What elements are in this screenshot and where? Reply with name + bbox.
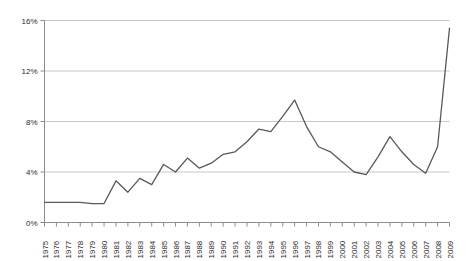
x-axis-tick-label: 1975 (41, 240, 50, 258)
x-axis-tick-label: 2006 (410, 240, 419, 258)
x-axis-tick-label: 1984 (148, 240, 157, 258)
y-axis-tick-label: 8% (26, 118, 38, 127)
x-axis-tick-label: 1990 (219, 240, 228, 258)
x-axis-tick-label: 2005 (398, 240, 407, 258)
plot-background (0, 0, 467, 261)
x-axis-tick-label: 1991 (231, 240, 240, 258)
y-axis-tick-label: 16% (21, 17, 37, 26)
y-axis-tick-label: 0% (26, 219, 38, 228)
x-axis-tick-label: 1994 (267, 240, 276, 258)
x-axis-tick-label: 1995 (279, 240, 288, 258)
x-axis-tick-label: 1998 (314, 240, 323, 258)
line-chart: 0%4%8%12%16% 197519761977197819791980198… (0, 0, 467, 261)
x-axis-tick-label: 1986 (172, 240, 181, 258)
x-axis-tick-label: 1982 (124, 240, 133, 258)
x-axis-labels: 1975197619771978197919801981198219831984… (41, 240, 455, 258)
y-axis-tick-label: 4% (26, 168, 38, 177)
x-axis-tick-label: 1979 (88, 240, 97, 258)
x-axis-tick-label: 1997 (303, 240, 312, 258)
x-axis-tick-label: 2009 (446, 240, 455, 258)
x-axis-tick-label: 2000 (338, 240, 347, 258)
x-axis-tick-label: 1988 (195, 240, 204, 258)
x-axis-tick-label: 1977 (64, 240, 73, 258)
chart-canvas: 0%4%8%12%16% 197519761977197819791980198… (0, 0, 467, 261)
x-axis-tick-label: 2002 (362, 240, 371, 258)
x-axis-tick-label: 1976 (52, 240, 61, 258)
x-axis-tick-label: 1985 (160, 240, 169, 258)
y-axis-tick-label: 12% (21, 67, 37, 76)
x-axis-tick-label: 1996 (291, 240, 300, 258)
x-axis-tick-label: 2004 (386, 240, 395, 258)
x-axis-tick-label: 1981 (112, 240, 121, 258)
x-axis-tick-label: 1999 (326, 240, 335, 258)
x-axis-tick-label: 1983 (136, 240, 145, 258)
x-axis-tick-label: 1992 (243, 240, 252, 258)
x-axis-tick-label: 2008 (434, 240, 443, 258)
x-axis-tick-label: 2007 (422, 240, 431, 258)
x-axis-tick-label: 1989 (207, 240, 216, 258)
x-axis-tick-label: 1987 (183, 240, 192, 258)
x-axis-tick-label: 1980 (100, 240, 109, 258)
x-axis-tick-label: 1978 (76, 240, 85, 258)
x-axis-tick-label: 1993 (255, 240, 264, 258)
x-axis-tick-label: 2001 (350, 240, 359, 258)
x-axis-tick-label: 2003 (374, 240, 383, 258)
